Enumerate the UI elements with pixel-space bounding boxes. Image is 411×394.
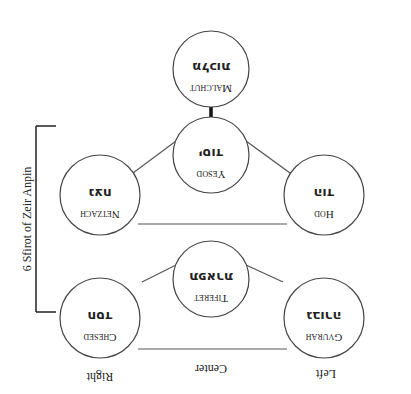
column-label-center: Center bbox=[195, 362, 227, 376]
column-label-right: Right bbox=[86, 370, 113, 384]
hebrew-malchut: מלכות bbox=[192, 60, 230, 75]
label-netzach: Netzach bbox=[80, 209, 120, 221]
hebrew-chesed: חסד bbox=[87, 309, 112, 324]
hebrew-gvurah: גבורה bbox=[306, 309, 341, 324]
label-hod: Hod bbox=[314, 209, 334, 221]
label-chesed: Chesed bbox=[83, 332, 116, 344]
label-tiferet: Tiferet bbox=[194, 293, 228, 305]
line-yesod-hod bbox=[246, 141, 290, 173]
line-tiferet-chesed bbox=[142, 265, 176, 282]
hebrew-netzach: נצח bbox=[88, 186, 111, 201]
label-yesod: Yesod bbox=[196, 169, 225, 181]
sefirot-diagram: 6 Sfirot of Zeir Anpin Malchut מלכות Yes… bbox=[0, 0, 411, 394]
line-yesod-netzach bbox=[133, 141, 176, 173]
hebrew-yesod: יסוד bbox=[199, 146, 224, 161]
hebrew-hod: הוד bbox=[313, 186, 334, 201]
column-label-left: Left bbox=[315, 367, 336, 381]
hebrew-tiferet: תפארת bbox=[189, 270, 233, 285]
bracket bbox=[36, 126, 56, 312]
label-gvurah: Gvurah bbox=[306, 332, 343, 344]
line-tiferet-gvurah bbox=[246, 265, 283, 282]
label-malchut: Malchut bbox=[190, 83, 232, 95]
bracket-label: 6 Sfirot of Zeir Anpin bbox=[20, 167, 34, 272]
